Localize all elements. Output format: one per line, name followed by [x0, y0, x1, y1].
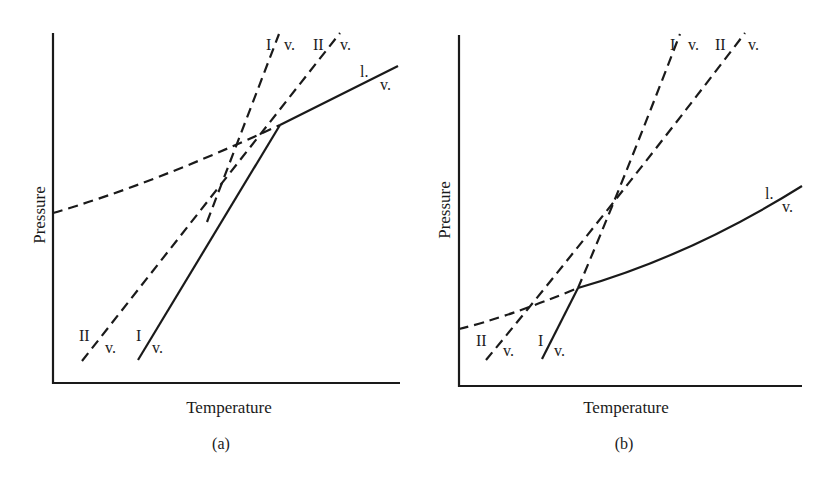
panel-b-Iv-dashed-curve	[578, 34, 680, 288]
panel-b-label-v-I-top: v.	[688, 36, 699, 53]
panel-a-label-v-II-top: v.	[340, 36, 351, 53]
panel-a-Iv-solid-curve	[138, 125, 280, 360]
panel-a-x-axis-label: Temperature	[186, 398, 272, 417]
panel-a-label-I-bottom: I	[136, 327, 141, 344]
panel-b-label-l: l.	[765, 185, 773, 202]
phase-diagram-figure: I v. II v. l. v. II v. I v. Pressure Tem…	[0, 0, 827, 482]
panel-b-label-v-II-bottom: v.	[503, 342, 514, 359]
panel-a-label-v-l: v.	[380, 76, 391, 93]
panel-b-y-axis-label: Pressure	[435, 181, 454, 239]
panel-a-label-v-II-bottom: v.	[105, 339, 116, 356]
panel-b-label-v-I-bottom: v.	[554, 342, 565, 359]
panel-a-lv-solid-curve	[280, 66, 398, 125]
panel-b-label-v-II-top: v.	[748, 36, 759, 53]
panel-a: I v. II v. l. v. II v. I v. Pressure Tem…	[30, 33, 400, 453]
panel-a-label-I-top: I	[266, 36, 271, 53]
panel-a-lv-dashed-curve	[53, 125, 280, 213]
panel-b-label-I-bottom: I	[538, 332, 543, 349]
panel-b-label-II-top: II	[715, 36, 726, 53]
panel-a-Iv-dashed-curve	[207, 34, 279, 222]
panel-a-label-v-I-top: v.	[284, 36, 295, 53]
panel-a-caption: (a)	[212, 435, 230, 453]
panel-b-label-I-top: I	[670, 36, 675, 53]
panel-b-label-v-l: v.	[782, 198, 793, 215]
panel-a-label-II-top: II	[313, 36, 324, 53]
panel-a-label-II-bottom: II	[79, 327, 90, 344]
panel-b-caption: (b)	[615, 435, 634, 453]
panel-b-label-II-bottom: II	[476, 332, 487, 349]
panel-a-label-l: l.	[360, 63, 368, 80]
panel-a-label-v-I-bottom: v.	[152, 339, 163, 356]
panel-a-IIv-dashed-curve	[82, 33, 340, 361]
panel-b: I v. II v. l. v. II v. I v. Pressure Tem…	[435, 33, 802, 453]
panel-a-y-axis-label: Pressure	[30, 186, 49, 244]
panel-b-x-axis-label: Temperature	[583, 398, 669, 417]
